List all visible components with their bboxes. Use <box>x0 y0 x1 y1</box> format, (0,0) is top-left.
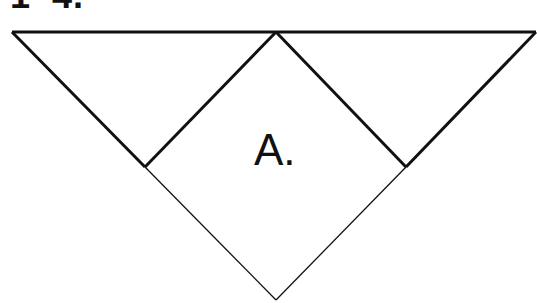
square-lower-right-edge <box>276 167 406 300</box>
square-lower-left-edge <box>145 167 276 300</box>
left-outer-edge-upper <box>12 32 145 167</box>
right-outer-edge-upper <box>406 32 536 167</box>
region-label-a: A. <box>254 128 296 172</box>
